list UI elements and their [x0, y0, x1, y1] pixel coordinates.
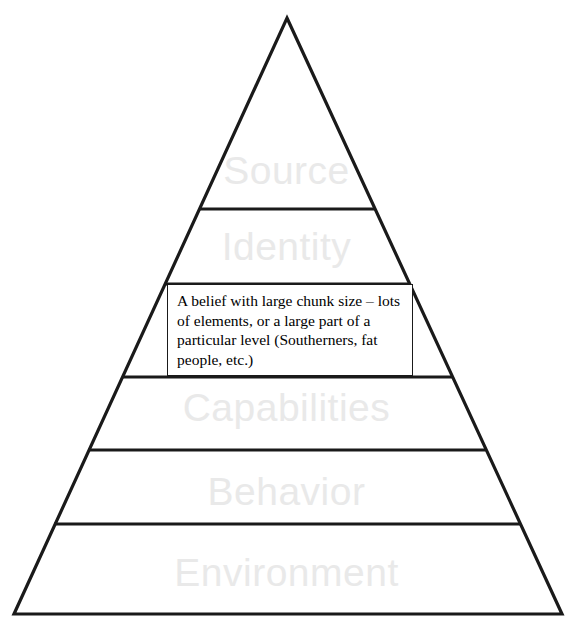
- pyramid-level-behavior: Behavior: [0, 470, 573, 514]
- beliefs-callout-text: A belief with large chunk size – lots of…: [177, 291, 404, 369]
- pyramid-level-identity: Identity: [0, 225, 573, 269]
- beliefs-callout-box: A belief with large chunk size – lots of…: [167, 284, 413, 376]
- pyramid-level-environment: Environment: [0, 551, 573, 595]
- pyramid-level-source: Source: [0, 149, 573, 193]
- pyramid-diagram: Source Identity Beliefs Capabilities Beh…: [0, 0, 573, 638]
- pyramid-level-capabilities: Capabilities: [0, 386, 573, 430]
